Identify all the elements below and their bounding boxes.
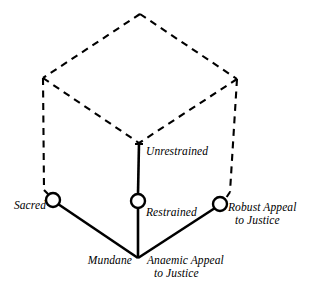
cube-dashed-edges [43, 14, 237, 192]
label-robust-appeal-line1: Robust Appeal [228, 201, 297, 214]
axis-sacred-mundane [58, 204, 138, 258]
cube-edge-top-right-center [139, 79, 237, 143]
cube-edge-vertical-right [230, 79, 237, 192]
label-robust-appeal-line2: to Justice [235, 214, 280, 227]
cube-edge-top-apex-left [43, 14, 140, 78]
label-unrestrained: Unrestrained [146, 145, 208, 158]
cube-axes-diagram: Sacred Unrestrained Restrained Robust Ap… [0, 0, 311, 293]
cube-edge-top-apex-right [140, 14, 237, 79]
robust-appeal-node[interactable] [213, 197, 227, 211]
axis-nodes [46, 193, 227, 211]
connector-right [226, 192, 230, 198]
label-mundane: Mundane [72, 254, 132, 267]
cube-edge-top-left-center [43, 78, 139, 143]
axis-vertical-upper [138, 143, 139, 194]
cube-edge-vertical-left [43, 78, 44, 190]
restrained-node[interactable] [131, 194, 145, 208]
label-sacred: Sacred [2, 199, 46, 212]
label-anaemic-appeal-line2: to Justice [154, 267, 199, 280]
label-restrained: Restrained [146, 206, 197, 219]
sacred-node[interactable] [46, 193, 60, 207]
label-anaemic-appeal-line1: Anaemic Appeal [147, 254, 224, 267]
